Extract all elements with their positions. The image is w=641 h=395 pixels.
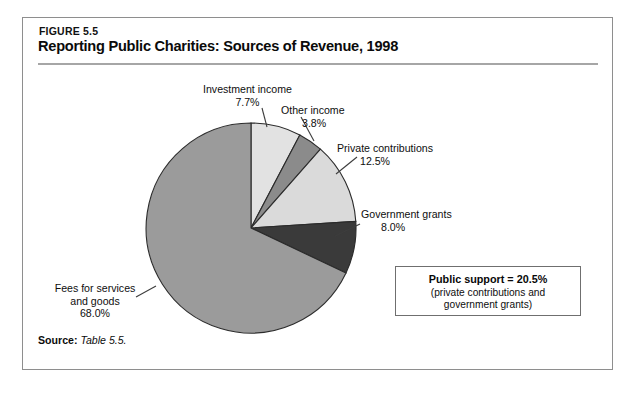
source-note: Source: Table 5.5. [38,334,127,346]
slice-label-fees-for-services: Fees for services and goods 68.0% [43,282,147,320]
slice-label-investment-income: Investment income 7.7% [203,83,292,108]
slice-label-other-income: Other income 3.8% [281,104,345,129]
slice-label-fees-for-services-value: 68.0% [43,307,147,320]
public-support-title: Public support = 20.5% [396,273,580,287]
pie-chart: Investment income 7.7% Other income 3.8%… [23,18,614,371]
slice-label-investment-income-value: 7.7% [203,96,292,109]
slice-label-other-income-name: Other income [281,104,345,116]
slice-label-government-grants-value: 8.0% [361,221,452,234]
slice-label-private-contributions-name: Private contributions [337,142,433,154]
slice-label-fees-for-services-name-line2: and goods [43,295,147,308]
public-support-subtitle-line1: (private contributions and [396,287,580,299]
figure-frame: FIGURE 5.5 Reporting Public Charities: S… [22,17,613,370]
slice-label-other-income-value: 3.8% [281,117,345,130]
slice-label-private-contributions: Private contributions 12.5% [337,142,433,167]
slice-label-government-grants: Government grants 8.0% [361,208,452,233]
source-prefix: Source: [38,334,77,346]
slice-label-fees-for-services-name-line1: Fees for services [55,282,136,294]
public-support-subtitle-line2: government grants) [396,299,580,311]
slice-label-government-grants-name: Government grants [361,208,452,220]
public-support-callout-box: Public support = 20.5% (private contribu… [395,266,581,316]
slice-label-investment-income-name: Investment income [203,83,292,95]
source-reference: Table 5.5. [80,334,126,346]
slice-label-private-contributions-value: 12.5% [337,155,433,168]
